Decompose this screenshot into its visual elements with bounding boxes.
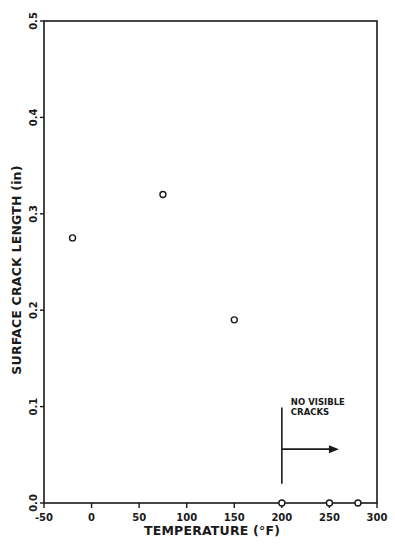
data-point-marker (160, 192, 166, 198)
x-tick-label: -50 (35, 512, 53, 523)
y-tick-label: 0.2 (28, 301, 39, 319)
y-tick-label: 0.0 (28, 494, 39, 512)
x-tick-label: 300 (367, 512, 388, 523)
x-axis-title: TEMPERATURE (°F) (144, 523, 280, 538)
y-axis-title: SURFACE CRACK LENGTH (in) (9, 165, 24, 374)
x-tick-label: 100 (176, 512, 197, 523)
x-tick-label: 200 (271, 512, 292, 523)
data-point-marker (70, 235, 76, 241)
data-point-marker (279, 500, 285, 506)
x-tick-label: 0 (88, 512, 95, 523)
x-tick-label: 50 (132, 512, 146, 523)
plot-border (44, 21, 377, 503)
y-tick-label: 0.3 (28, 205, 39, 223)
scatter-chart: 0.00.10.20.30.40.5 -50050100150200250300… (0, 0, 395, 544)
y-axis-ticks: 0.00.10.20.30.40.5 (28, 12, 44, 512)
y-tick-label: 0.1 (28, 398, 39, 416)
y-tick-label: 0.4 (28, 109, 39, 127)
data-points (70, 192, 361, 506)
annotation-text: NO VISIBLE (291, 397, 345, 407)
plot-frame (44, 21, 377, 503)
no-visible-cracks-annotation: NO VISIBLECRACKS (282, 397, 345, 484)
x-axis-ticks: -50050100150200250300 (35, 503, 388, 523)
data-point-marker (231, 317, 237, 323)
data-point-marker (355, 500, 361, 506)
y-tick-label: 0.5 (28, 12, 39, 30)
data-point-marker (326, 500, 332, 506)
x-tick-label: 150 (224, 512, 245, 523)
x-tick-label: 250 (319, 512, 340, 523)
annotation-text: CRACKS (291, 407, 329, 417)
arrow-right-icon (329, 445, 339, 453)
